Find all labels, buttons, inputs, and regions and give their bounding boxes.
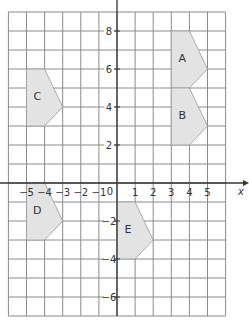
x-tick-label: 1 xyxy=(132,187,138,198)
x-tick-label: −1 xyxy=(92,187,107,198)
shape-label: B xyxy=(178,109,186,122)
shape-label: C xyxy=(34,90,42,103)
y-tick-label: −6 xyxy=(102,292,117,303)
y-tick-label: −2 xyxy=(102,216,117,227)
x-tick-label: 5 xyxy=(204,187,210,198)
y-tick-label: −4 xyxy=(102,254,117,265)
shape-b: B xyxy=(171,88,207,145)
coordinate-grid: ABCDE x −5−4−3−2−11234508642−2−4−6 xyxy=(0,0,249,320)
shape-label: D xyxy=(33,204,41,217)
axes: x xyxy=(0,0,249,316)
y-tick-label: 6 xyxy=(106,64,112,75)
x-tick-label: −2 xyxy=(73,187,88,198)
y-tick-label: 4 xyxy=(106,102,112,113)
origin-label: 0 xyxy=(107,186,113,197)
shape-label: E xyxy=(124,223,131,236)
x-tick-label: 2 xyxy=(150,187,156,198)
x-tick-label: 3 xyxy=(168,187,174,198)
x-tick-label: −3 xyxy=(55,187,70,198)
shape-e: E xyxy=(117,202,153,259)
x-axis-label: x xyxy=(237,186,244,197)
shape-a: A xyxy=(171,31,207,88)
x-tick-label: 4 xyxy=(186,187,192,198)
y-tick-label: 2 xyxy=(106,140,112,151)
x-tick-label: −4 xyxy=(37,187,52,198)
y-tick-label: 8 xyxy=(106,26,112,37)
shape-c: C xyxy=(27,69,63,126)
x-tick-label: −5 xyxy=(19,187,34,198)
shape-label: A xyxy=(178,52,186,65)
